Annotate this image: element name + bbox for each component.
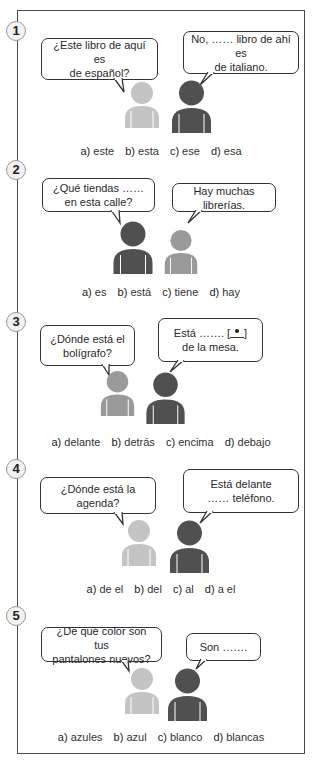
option-d[interactable]: d) debajo <box>225 436 271 448</box>
option-b[interactable]: b) detrás <box>111 436 154 448</box>
bubble-line: de italiano. <box>214 60 267 74</box>
option-a[interactable]: a) delante <box>51 436 100 448</box>
answer-options: a) delante b) detrás c) encima d) debajo <box>17 436 305 448</box>
option-d[interactable]: d) esa <box>211 145 242 157</box>
option-c[interactable]: c) ese <box>170 145 200 157</box>
bubble-line: Hay muchas librerías. <box>179 184 269 212</box>
answer-options: a) azules b) azul c) blanco d) blancas <box>17 731 305 743</box>
person-light-icon <box>124 81 160 128</box>
reply-speech-bubble: Está ……. [] de la mesa. <box>158 318 263 362</box>
question-speech-bubble: ¿Este libro de aquí es de español? <box>41 38 158 80</box>
bubble-line: Está delante <box>210 477 271 491</box>
option-b[interactable]: b) azul <box>114 731 147 743</box>
bubble-line: …… teléfono. <box>207 491 274 505</box>
option-b[interactable]: b) está <box>118 286 152 298</box>
option-b[interactable]: b) del <box>134 583 162 595</box>
bubble-line: de la mesa. <box>182 340 239 354</box>
bubble-line: ¿Dónde está el <box>50 332 125 346</box>
option-a[interactable]: a) azules <box>58 731 103 743</box>
bubble-line: No, …… libro de ahí es <box>190 32 292 60</box>
person-light-icon <box>124 667 160 714</box>
bubble-line: bolígrafo? <box>63 346 112 360</box>
speech-tail-icon <box>186 210 206 226</box>
bubble-line: en esta calle? <box>65 195 133 209</box>
exercise-number-badge: 5 <box>6 606 26 626</box>
option-c[interactable]: c) al <box>173 583 194 595</box>
bubble-line: ¿De qué color son tus <box>48 624 155 652</box>
person-dark-icon <box>169 520 210 573</box>
person-dark-icon <box>171 80 212 133</box>
bubble-line: ¿Dónde está la agenda? <box>47 482 149 510</box>
person-medium-icon <box>163 229 199 274</box>
exercise-number-badge: 4 <box>6 459 26 479</box>
question-speech-bubble: ¿Dónde está el bolígrafo? <box>40 325 135 366</box>
exercise-number-badge: 2 <box>6 160 26 180</box>
person-dark-icon <box>112 221 154 274</box>
option-b[interactable]: b) esta <box>125 145 159 157</box>
exercise-number-badge: 3 <box>6 312 26 332</box>
reply-speech-bubble: Está delante …… teléfono. <box>183 469 299 513</box>
bubble-line: ¿Qué tiendas …… <box>53 181 144 195</box>
pen-below-table-icon <box>230 327 244 338</box>
person-dark-icon <box>145 372 186 424</box>
question-speech-bubble: ¿Qué tiendas …… en esta calle? <box>42 178 155 212</box>
bubble-line: ¿Este libro de aquí es <box>48 38 151 66</box>
option-a[interactable]: a) de el <box>87 583 124 595</box>
exercise-number-badge: 1 <box>6 21 26 41</box>
option-c[interactable]: c) blanco <box>158 731 203 743</box>
reply-speech-bubble: No, …… libro de ahí es de italiano. <box>183 31 299 74</box>
person-light-icon <box>121 519 157 566</box>
person-dark-icon <box>167 668 208 721</box>
option-a[interactable]: a) es <box>82 286 106 298</box>
option-d[interactable]: d) a el <box>205 583 236 595</box>
answer-options: a) este b) esta c) ese d) esa <box>17 145 305 157</box>
option-a[interactable]: a) este <box>80 145 114 157</box>
reply-speech-bubble: Hay muchas librerías. <box>172 183 276 212</box>
question-speech-bubble: ¿De qué color son tus pantalones nuevos? <box>41 627 162 662</box>
bubble-line: Son ……. <box>200 640 248 654</box>
option-d[interactable]: d) blancas <box>213 731 264 743</box>
person-medium-icon <box>99 370 136 416</box>
option-c[interactable]: c) tiene <box>162 286 198 298</box>
option-d[interactable]: d) hay <box>209 286 240 298</box>
question-speech-bubble: ¿Dónde está la agenda? <box>40 477 156 514</box>
reply-speech-bubble: Son ……. <box>186 633 261 661</box>
option-c[interactable]: c) encima <box>166 436 214 448</box>
answer-options: a) es b) está c) tiene d) hay <box>17 286 305 298</box>
bubble-line: Está ……. [] <box>174 326 247 340</box>
answer-options: a) de el b) del c) al d) a el <box>17 583 305 595</box>
